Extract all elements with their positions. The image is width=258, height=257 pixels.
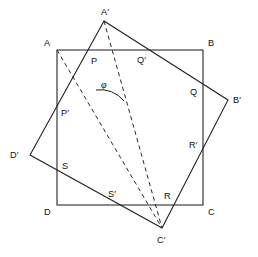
angle-arc-phi bbox=[96, 90, 124, 101]
point-label-r-prime: R′ bbox=[189, 140, 198, 150]
vertex-label-d-prime: D′ bbox=[10, 150, 19, 160]
vertex-label-b: B bbox=[208, 38, 214, 48]
dashed-line-a-to-c-prime bbox=[57, 50, 162, 228]
point-label-r: R bbox=[164, 191, 171, 201]
square-a-prime-b-prime-c-prime-d-prime bbox=[30, 21, 228, 228]
vertex-label-a-prime: A′ bbox=[101, 7, 109, 17]
vertex-label-c: C bbox=[208, 207, 215, 217]
point-label-q: Q bbox=[190, 87, 197, 97]
point-label-q-prime: Q′ bbox=[137, 55, 146, 65]
vertex-label-d: D bbox=[44, 207, 51, 217]
point-label-p: P bbox=[91, 56, 97, 66]
vertex-label-b-prime: B′ bbox=[233, 95, 241, 105]
vertex-label-a: A bbox=[44, 38, 51, 48]
point-label-s: S bbox=[62, 161, 68, 171]
angle-label-phi: φ bbox=[101, 79, 107, 90]
point-label-p-prime: P′ bbox=[61, 108, 69, 118]
point-label-s-prime: S′ bbox=[108, 189, 116, 199]
vertex-label-c-prime: C′ bbox=[157, 235, 166, 245]
geometry-figure: φ A B C D A′ B′ C′ D′ P Q′ Q R′ R S′ S P… bbox=[0, 0, 258, 257]
